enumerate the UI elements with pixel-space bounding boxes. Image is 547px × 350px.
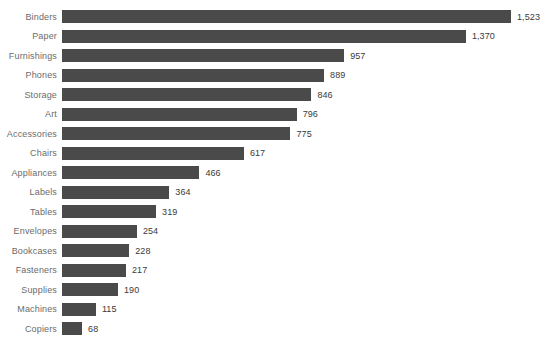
- bar-track: 364: [62, 186, 169, 199]
- bar-value-label: 466: [205, 168, 220, 178]
- category-label: Envelopes: [14, 226, 57, 236]
- bar-track: 1,523: [62, 10, 511, 23]
- bar[interactable]: [62, 108, 297, 121]
- bar[interactable]: [62, 186, 169, 199]
- bar-track: 115: [62, 303, 96, 316]
- bar-track: 68: [62, 322, 82, 335]
- bar-row: Copiers68: [0, 322, 547, 335]
- bar[interactable]: [62, 166, 199, 179]
- bar-track: 617: [62, 147, 244, 160]
- bar-row: Fasteners217: [0, 264, 547, 277]
- category-label: Appliances: [11, 168, 57, 178]
- category-label: Art: [45, 109, 57, 119]
- bar-value-label: 846: [317, 90, 332, 100]
- category-label: Accessories: [7, 129, 57, 139]
- category-label: Copiers: [25, 324, 57, 334]
- bar-value-label: 217: [132, 265, 147, 275]
- bar-value-label: 319: [162, 207, 177, 217]
- bar-value-label: 957: [350, 51, 365, 61]
- category-label: Storage: [24, 90, 57, 100]
- bar-track: 217: [62, 264, 126, 277]
- bar[interactable]: [62, 69, 324, 82]
- bar[interactable]: [62, 225, 137, 238]
- bar[interactable]: [62, 127, 290, 140]
- bar-row: Labels364: [0, 186, 547, 199]
- bar-row: Binders1,523: [0, 10, 547, 23]
- bar-value-label: 115: [102, 304, 117, 314]
- category-label: Paper: [32, 31, 57, 41]
- bar-value-label: 364: [175, 187, 190, 197]
- bar-track: 254: [62, 225, 137, 238]
- bar[interactable]: [62, 264, 126, 277]
- category-label: Phones: [26, 70, 57, 80]
- bar-value-label: 796: [303, 109, 318, 119]
- bar-value-label: 1,523: [517, 12, 540, 22]
- bar-row: Appliances466: [0, 166, 547, 179]
- bar-track: 957: [62, 49, 344, 62]
- category-label: Tables: [30, 207, 57, 217]
- bar-value-label: 775: [296, 129, 311, 139]
- bar-track: 190: [62, 283, 118, 296]
- category-label: Labels: [30, 187, 57, 197]
- bar-row: Supplies190: [0, 283, 547, 296]
- bar-row: Paper1,370: [0, 30, 547, 43]
- bar-row: Machines115: [0, 303, 547, 316]
- bar[interactable]: [62, 10, 511, 23]
- category-label: Binders: [25, 12, 57, 22]
- bar-track: 319: [62, 205, 156, 218]
- bar-track: 846: [62, 88, 311, 101]
- bar[interactable]: [62, 147, 244, 160]
- bar-chart: Binders1,523Paper1,370Furnishings957Phon…: [0, 0, 547, 350]
- plot-area: Binders1,523Paper1,370Furnishings957Phon…: [0, 0, 547, 350]
- bar-value-label: 190: [124, 285, 139, 295]
- bar-value-label: 1,370: [472, 31, 495, 41]
- bar-row: Envelopes254: [0, 225, 547, 238]
- bar-row: Accessories775: [0, 127, 547, 140]
- bar[interactable]: [62, 205, 156, 218]
- category-label: Bookcases: [12, 246, 57, 256]
- bar[interactable]: [62, 283, 118, 296]
- bar[interactable]: [62, 303, 96, 316]
- bar-row: Phones889: [0, 69, 547, 82]
- category-label: Machines: [17, 304, 57, 314]
- bar-row: Bookcases228: [0, 244, 547, 257]
- bar[interactable]: [62, 30, 466, 43]
- bar-value-label: 68: [88, 324, 98, 334]
- category-label: Chairs: [30, 148, 57, 158]
- category-label: Furnishings: [9, 51, 57, 61]
- bar-track: 889: [62, 69, 324, 82]
- bar-track: 796: [62, 108, 297, 121]
- bar[interactable]: [62, 88, 311, 101]
- bar-track: 466: [62, 166, 199, 179]
- category-label: Supplies: [21, 285, 57, 295]
- bar-track: 1,370: [62, 30, 466, 43]
- bar[interactable]: [62, 244, 129, 257]
- bar-row: Art796: [0, 108, 547, 121]
- bar-row: Storage846: [0, 88, 547, 101]
- bar-value-label: 889: [330, 70, 345, 80]
- bar-value-label: 228: [135, 246, 150, 256]
- bar-value-label: 254: [143, 226, 158, 236]
- bar-track: 775: [62, 127, 290, 140]
- bar[interactable]: [62, 322, 82, 335]
- bar-row: Tables319: [0, 205, 547, 218]
- category-label: Fasteners: [16, 265, 57, 275]
- bar[interactable]: [62, 49, 344, 62]
- bar-value-label: 617: [250, 148, 265, 158]
- bar-row: Furnishings957: [0, 49, 547, 62]
- bar-row: Chairs617: [0, 147, 547, 160]
- bar-track: 228: [62, 244, 129, 257]
